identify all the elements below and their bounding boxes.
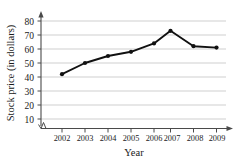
x-tick-label-2005: 2005 [123,134,140,143]
y-axis-title: Stock price (in dollars) [5,24,17,121]
x-tick-label-2003: 2003 [77,134,94,143]
line-chart-figure: 80 70 60 50 40 30 20 10 2002 2003 2004 [0,0,238,161]
y-tick-label-40: 40 [25,73,35,83]
y-tick-label-10: 10 [25,115,35,125]
x-tick-label-2009: 2009 [209,134,226,143]
y-tick-label-20: 20 [25,101,35,111]
y-tick-label-70: 70 [25,31,35,41]
x-tick-label-2006: 2006 [146,134,163,143]
x-tick-label-2007: 2007 [164,134,181,143]
y-tick-label-30: 30 [25,87,35,97]
x-tick-label-2008: 2008 [187,134,204,143]
y-tick-label-80: 80 [25,17,35,27]
data-point-2009 [214,46,218,50]
data-point-2006 [152,41,156,45]
data-point-2002 [60,72,64,76]
data-point-2005 [129,50,133,54]
x-tick-label-2004: 2004 [100,134,117,143]
x-tick-label-2002: 2002 [54,134,71,143]
data-point-2003 [83,61,87,65]
y-tick-label-50: 50 [25,59,35,69]
data-point-2007 [168,29,172,33]
data-point-2008 [191,44,195,48]
x-axis-title: Year [124,147,144,158]
y-tick-label-60: 60 [25,45,35,55]
data-point-2004 [106,54,110,58]
chart-canvas: 80 70 60 50 40 30 20 10 2002 2003 2004 [0,0,238,161]
